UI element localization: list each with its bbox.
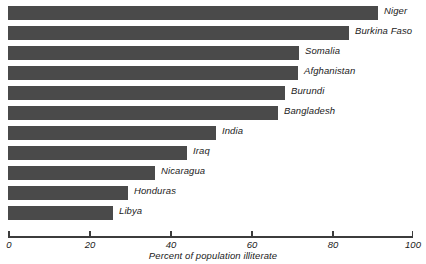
bar-label: Honduras: [134, 185, 176, 196]
bar[interactable]: [8, 86, 285, 100]
x-axis-tick-label: 0: [6, 239, 11, 250]
illiteracy-bar-chart: Niger Burkina Faso Somalia Afghanistan B…: [0, 0, 426, 264]
x-axis-tick-label: 100: [405, 239, 421, 250]
bar[interactable]: [8, 186, 128, 200]
bar-label: Iraq: [193, 145, 210, 156]
bar-label: Burkina Faso: [355, 25, 412, 36]
x-axis-tick: [8, 231, 10, 236]
bar[interactable]: [8, 6, 378, 20]
x-axis-tick-label: 60: [247, 239, 258, 250]
x-axis-tick: [170, 231, 172, 236]
x-axis-tick: [412, 231, 414, 236]
bar[interactable]: [8, 166, 155, 180]
x-axis: [8, 236, 413, 238]
bar-label: Nicaragua: [161, 165, 205, 176]
bar[interactable]: [8, 66, 298, 80]
x-axis-tick-label: 40: [166, 239, 177, 250]
x-axis-tick-label: 20: [85, 239, 96, 250]
bar-label: Somalia: [305, 45, 340, 56]
bar[interactable]: [8, 106, 278, 120]
bar[interactable]: [8, 46, 299, 60]
bar-label: India: [222, 125, 243, 136]
x-axis-title: Percent of population illiterate: [0, 250, 426, 261]
x-axis-tick: [332, 231, 334, 236]
bar[interactable]: [8, 26, 349, 40]
bar-label: Libya: [119, 205, 142, 216]
x-axis-tick-label: 80: [328, 239, 339, 250]
bar[interactable]: [8, 146, 187, 160]
plot-area: Niger Burkina Faso Somalia Afghanistan B…: [0, 0, 426, 228]
bar-label: Niger: [384, 5, 407, 16]
bar[interactable]: [8, 206, 113, 220]
bar-label: Burundi: [291, 85, 324, 96]
x-axis-tick: [89, 231, 91, 236]
x-axis-tick: [251, 231, 253, 236]
bar[interactable]: [8, 126, 216, 140]
bar-label: Bangladesh: [284, 105, 335, 116]
bar-label: Afghanistan: [304, 65, 355, 76]
